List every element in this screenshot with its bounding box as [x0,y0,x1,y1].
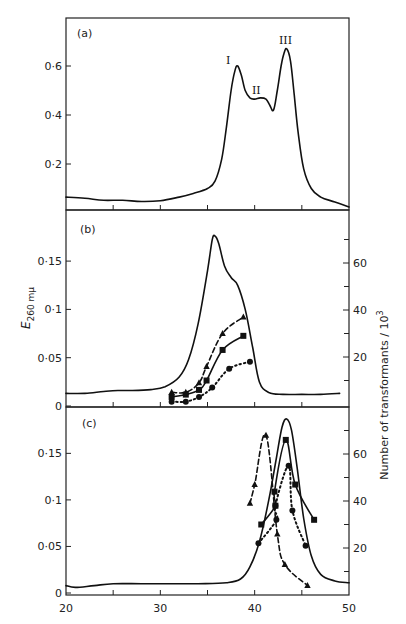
square-marker [220,347,226,353]
x-tick-label: 50 [342,602,356,615]
panel-c-frame [66,407,349,595]
axis-ticks [66,66,349,595]
circle-marker [169,399,175,405]
absorbance-curve [66,49,349,207]
y-tick-label-right: 60 [353,257,367,270]
x-tick-label: 40 [248,602,262,615]
svg-text:E260 mμ: E260 mμ [19,287,36,329]
y-tick-label-right: 20 [353,542,367,555]
y-tick-label-left: 0·1 [45,303,63,316]
triangle-marker [263,432,269,438]
square-marker [204,378,210,384]
figure: 0·20·40·600·050·10·1520406000·050·10·152… [0,0,406,624]
y-tick-label-left: 0·15 [38,447,63,460]
square-marker [258,522,264,528]
y-tick-label-left: 0·4 [45,109,63,122]
peak-label-II: II [252,84,261,97]
circle-marker [273,517,279,523]
x-tick-label: 30 [153,602,167,615]
y-tick-label-left: 0·15 [38,255,63,268]
circle-marker [183,399,189,405]
triangle-marker [274,530,280,536]
square-marker [183,392,189,398]
y-tick-label-left: 0·05 [38,352,63,365]
panel-b-label: (b) [80,223,96,236]
data-curves [66,49,349,588]
y-tick-label-left: 0·6 [45,60,63,73]
y-tick-label-right: 60 [353,448,367,461]
x-tick-label: 20 [59,602,73,615]
absorbance-curve [66,235,340,394]
circle-marker [272,503,278,509]
peak-label-I: I [226,54,230,67]
circle-marker [255,540,261,546]
square-marker [240,333,246,339]
square-marker [271,489,277,495]
right-axis-title-sup: 3 [376,310,385,315]
circle-marker [247,359,253,365]
right-axis-title-main: Number of transformants / 10 [378,315,391,479]
circle-marker [196,394,202,400]
transformants-curve-triangles [250,434,308,586]
absorbance-curve [66,419,349,588]
circle-marker [286,463,292,469]
y-tick-label-right: 40 [353,495,367,508]
y-tick-label-left: 0·2 [45,158,63,171]
circle-marker [209,385,215,391]
square-marker [283,437,289,443]
square-marker [292,482,298,488]
left-axis-title-sub: 260 mμ [26,287,36,322]
peak-label-III: III [279,34,292,47]
right-axis-title: Number of transformants / 103 [376,310,391,479]
y-tick-label-left: 0 [55,400,62,413]
triangle-marker [203,363,209,369]
circle-marker [226,366,232,372]
triangle-marker [251,481,257,487]
tick-labels: 0·20·40·600·050·10·1520406000·050·10·152… [38,60,368,615]
circle-marker [289,507,295,513]
left-axis-title: E260 mμ [19,287,36,329]
y-tick-label-right: 40 [353,304,367,317]
svg-text:Number of transformants / 10: Number of transformants / 103 [376,310,391,479]
y-tick-label-left: 0·1 [45,494,63,507]
y-tick-label-left: 0·05 [38,540,63,553]
square-marker [311,517,317,523]
panel-a-frame [66,18,349,210]
circle-marker [303,543,309,549]
triangle-marker [247,500,253,506]
square-marker [196,387,202,393]
y-tick-label-left: 0 [55,587,62,600]
y-tick-label-right: 20 [353,351,367,364]
panel-a-label: (a) [77,27,92,40]
panel-c-label: (c) [82,417,97,430]
